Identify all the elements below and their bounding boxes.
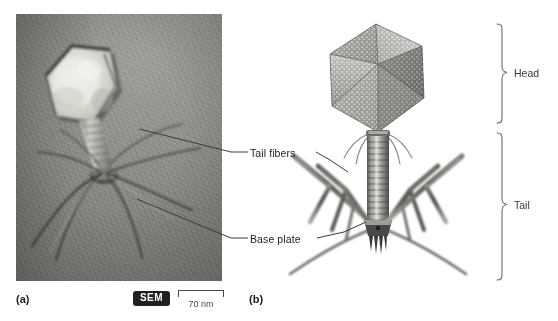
scale-bar-label: 70 nm — [178, 299, 224, 309]
callout-label-base-plate: Base plate — [250, 233, 301, 245]
scale-bar-tick-right — [223, 290, 224, 297]
capsid-head — [330, 24, 424, 132]
scale-bar-rule — [178, 290, 224, 298]
tail-sheath — [367, 136, 389, 224]
phage-3d-model — [288, 8, 474, 293]
sem-badge: SEM — [133, 291, 170, 306]
bracket-label-tail: Tail — [514, 199, 530, 211]
scale-bar-tick-left — [178, 290, 179, 297]
bracket-label-head: Head — [514, 67, 539, 79]
callout-label-tail-fibers: Tail fibers — [250, 147, 295, 159]
panel-letter-b: (b) — [249, 293, 263, 305]
scale-bar: 70 nm — [178, 290, 224, 309]
figure-root: Tail fibers Base plate Head Tail (a) (b)… — [0, 0, 558, 321]
sem-micrograph-image — [16, 14, 222, 281]
phage-model-drawing — [288, 8, 474, 293]
micrograph-vignette — [16, 14, 222, 281]
panel-letter-a: (a) — [16, 293, 29, 305]
base-plate — [364, 220, 392, 254]
